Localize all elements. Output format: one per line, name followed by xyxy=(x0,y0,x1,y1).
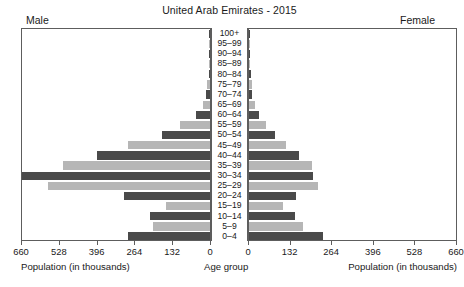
male-bar-row xyxy=(22,222,210,232)
female-bar-row xyxy=(249,161,456,171)
female-tick-label-660: 660 xyxy=(448,246,464,257)
age-group-label-65-69: 65–69 xyxy=(212,99,247,109)
male-bar-15-19 xyxy=(166,202,210,210)
female-bar-row xyxy=(249,201,456,211)
female-axis-caption: Population (in thousands) xyxy=(348,261,457,272)
female-bar-row xyxy=(249,120,456,130)
male-tick-label-396: 396 xyxy=(89,246,105,257)
age-group-caption: Age group xyxy=(204,261,248,272)
female-bar-15-19 xyxy=(249,202,283,210)
female-bar-55-59 xyxy=(249,121,266,129)
male-tick-0 xyxy=(210,241,211,245)
female-bar-row xyxy=(249,49,456,59)
female-bar-20-24 xyxy=(249,192,296,200)
female-bar-row xyxy=(249,59,456,69)
age-group-label-70-74: 70–74 xyxy=(212,89,247,99)
female-bar-100+ xyxy=(249,30,250,38)
male-bar-40-44 xyxy=(97,151,210,159)
female-bar-5-9 xyxy=(249,222,303,230)
male-bar-row xyxy=(22,151,210,161)
age-group-label-35-39: 35–39 xyxy=(212,160,247,170)
male-bar-row xyxy=(22,212,210,222)
female-bar-row xyxy=(249,222,456,232)
age-group-label-60-64: 60–64 xyxy=(212,109,247,119)
female-bar-30-34 xyxy=(249,172,313,180)
age-group-label-50-54: 50–54 xyxy=(212,129,247,139)
female-bar-row xyxy=(249,70,456,80)
male-bar-20-24 xyxy=(124,192,210,200)
female-bar-40-44 xyxy=(249,151,299,159)
female-bar-80-84 xyxy=(249,70,251,78)
male-bar-95-99 xyxy=(209,40,210,48)
female-tick-0 xyxy=(248,241,249,245)
age-group-label-100+: 100+ xyxy=(212,28,247,38)
female-bar-row xyxy=(249,29,456,39)
male-bar-70-74 xyxy=(206,90,210,98)
male-tick-label-660: 660 xyxy=(13,246,29,257)
male-bar-row xyxy=(22,191,210,201)
male-tick-label-264: 264 xyxy=(127,246,143,257)
male-bar-row xyxy=(22,181,210,191)
male-bar-90-94 xyxy=(209,50,210,58)
female-bar-row xyxy=(249,191,456,201)
male-bar-100+ xyxy=(209,30,210,38)
female-bar-75-79 xyxy=(249,80,252,88)
female-x-axis xyxy=(248,241,457,246)
male-tick-132 xyxy=(172,241,173,245)
female-bar-rows xyxy=(249,29,456,240)
male-bar-rows xyxy=(22,29,210,240)
male-axis-caption: Population (in thousands) xyxy=(21,261,130,272)
age-group-label-15-19: 15–19 xyxy=(212,200,247,210)
female-tick-label-132: 132 xyxy=(282,246,298,257)
male-bar-0-4 xyxy=(128,232,210,240)
male-x-axis xyxy=(21,241,211,246)
age-group-label-10-14: 10–14 xyxy=(212,211,247,221)
female-tick-660 xyxy=(456,241,457,245)
male-tick-label-0: 0 xyxy=(207,246,212,257)
male-bar-row xyxy=(22,80,210,90)
male-bar-50-54 xyxy=(162,131,210,139)
male-bar-55-59 xyxy=(180,121,210,129)
male-bar-row xyxy=(22,100,210,110)
female-tick-label-0: 0 xyxy=(245,246,250,257)
female-tick-label-264: 264 xyxy=(323,246,339,257)
female-bar-25-29 xyxy=(249,182,318,190)
male-bar-75-79 xyxy=(207,80,210,88)
age-group-label-55-59: 55–59 xyxy=(212,119,247,129)
age-group-label-75-79: 75–79 xyxy=(212,79,247,89)
age-group-label-0-4: 0–4 xyxy=(212,231,247,241)
female-bar-row xyxy=(249,171,456,181)
female-bar-row xyxy=(249,130,456,140)
age-group-label-40-44: 40–44 xyxy=(212,150,247,160)
female-bar-60-64 xyxy=(249,111,259,119)
male-bar-row xyxy=(22,70,210,80)
female-plot-area xyxy=(248,28,457,241)
female-bar-row xyxy=(249,110,456,120)
male-bar-row xyxy=(22,120,210,130)
male-bar-row xyxy=(22,59,210,69)
female-tick-label-528: 528 xyxy=(407,246,423,257)
female-bar-row xyxy=(249,80,456,90)
chart-title: United Arab Emirates - 2015 xyxy=(0,4,459,16)
male-bar-25-29 xyxy=(48,182,210,190)
age-group-label-45-49: 45–49 xyxy=(212,140,247,150)
female-bar-95-99 xyxy=(249,40,250,48)
male-bar-row xyxy=(22,90,210,100)
male-bar-10-14 xyxy=(150,212,210,220)
age-group-label-20-24: 20–24 xyxy=(212,190,247,200)
female-tick-528 xyxy=(414,241,415,245)
female-bar-row xyxy=(249,151,456,161)
age-group-label-90-94: 90–94 xyxy=(212,48,247,58)
male-bar-row xyxy=(22,110,210,120)
male-bar-45-49 xyxy=(128,141,210,149)
male-tick-label-528: 528 xyxy=(51,246,67,257)
female-tick-396 xyxy=(373,241,374,245)
female-bar-row xyxy=(249,141,456,151)
male-bar-row xyxy=(22,161,210,171)
age-group-label-80-84: 80–84 xyxy=(212,69,247,79)
male-tick-528 xyxy=(59,241,60,245)
male-tick-396 xyxy=(97,241,98,245)
age-group-label-85-89: 85–89 xyxy=(212,58,247,68)
male-bar-30-34 xyxy=(21,172,210,180)
male-plot-area xyxy=(21,28,211,241)
